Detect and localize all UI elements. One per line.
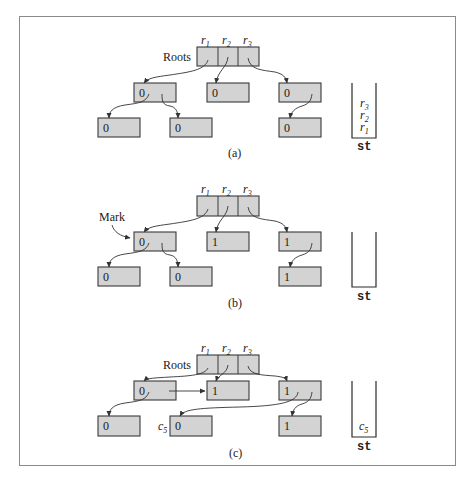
mark-bit: 0 (175, 270, 181, 284)
panel-b: r1 r2 r3 Mark 0 1 1 0 0 1 (98, 182, 376, 310)
mark-stack: c5 st (352, 381, 376, 454)
mark-pointer-arrow (112, 225, 130, 238)
mark-bit: 1 (284, 419, 290, 433)
stack-label: st (357, 440, 371, 454)
gc-mark-diagram: r1 r2 r3 Roots 0 0 0 0 0 0 (0, 0, 472, 483)
mark-bit: 1 (212, 235, 218, 249)
mark-annotation: Mark (99, 210, 125, 224)
roots-label: Roots (163, 358, 191, 372)
mark-bit: 1 (284, 270, 290, 284)
mark-stack: r3 r2 r1 st (352, 83, 376, 154)
stack-item: c5 (359, 419, 368, 435)
mark-bit: 0 (284, 86, 290, 100)
mark-bit: 1 (284, 235, 290, 249)
roots-label: Roots (163, 50, 191, 64)
mark-bit: 0 (284, 121, 290, 135)
mark-bit: 0 (139, 86, 145, 100)
node-label-c5: c5 (158, 419, 167, 435)
stack-label: st (357, 140, 371, 154)
panel-caption: (b) (228, 296, 242, 310)
mark-bit: 0 (212, 86, 218, 100)
stack-label: st (357, 290, 371, 304)
mark-bit: 0 (175, 419, 181, 433)
panel-c: r1 r2 r3 Roots 0 1 1 0 c5 0 1 (98, 341, 376, 460)
roots-array (197, 355, 259, 374)
mark-bit: 0 (175, 121, 181, 135)
mark-bit: 0 (103, 419, 109, 433)
mark-bit: 0 (103, 270, 109, 284)
mark-stack: st (352, 232, 376, 304)
mark-bit: 0 (139, 384, 145, 398)
mark-bit: 1 (284, 384, 290, 398)
mark-bit: 0 (103, 121, 109, 135)
panel-caption: (a) (228, 146, 241, 160)
mark-bit: 0 (139, 235, 145, 249)
mark-bit: 1 (212, 384, 218, 398)
panel-caption: (c) (229, 446, 242, 460)
panel-a: r1 r2 r3 Roots 0 0 0 0 0 0 (98, 33, 376, 160)
